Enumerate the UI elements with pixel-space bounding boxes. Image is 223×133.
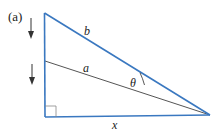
arrow-down-icon-upper [28, 18, 34, 39]
label-a: a [83, 61, 89, 75]
label-b: b [84, 24, 90, 38]
panel-label: (a) [8, 9, 22, 24]
label-theta: θ [130, 76, 136, 90]
hypotenuse-b [45, 13, 211, 115]
right-triangle [45, 13, 211, 117]
base-side [45, 115, 210, 117]
vertical-side [45, 13, 46, 117]
triangle-diagram: (a) b a θ x [0, 0, 223, 133]
arrow-down-icon-lower [29, 64, 35, 85]
right-angle-marker [45, 106, 56, 117]
label-x: x [111, 118, 118, 132]
segment-a [45, 61, 210, 115]
